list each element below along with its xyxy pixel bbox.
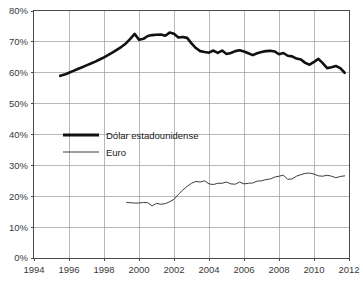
y-tick-label: 50% — [9, 98, 29, 109]
y-tick-label: 40% — [9, 129, 29, 140]
data-series — [60, 33, 344, 206]
y-tick-label: 20% — [9, 191, 29, 202]
series-line-dolar-estadounidense — [60, 33, 344, 76]
chart-container: 0%10%20%30%40%50%60%70%80% 1994199619982… — [0, 0, 363, 289]
x-tick-label: 2010 — [303, 264, 324, 275]
line-chart: 0%10%20%30%40%50%60%70%80% 1994199619982… — [0, 0, 363, 289]
y-tick-label: 70% — [9, 36, 29, 47]
x-tick-label: 2000 — [128, 264, 149, 275]
y-tick-label: 80% — [9, 5, 29, 16]
x-tick-label: 2004 — [198, 264, 219, 275]
x-tick-label: 1994 — [23, 264, 44, 275]
legend-label-euro: Euro — [106, 147, 126, 158]
x-tick-label: 1998 — [93, 264, 114, 275]
y-tick-label: 0% — [14, 252, 28, 263]
y-axis-labels: 0%10%20%30%40%50%60%70%80% — [9, 5, 29, 263]
y-tick-label: 60% — [9, 67, 29, 78]
x-tick-label: 2008 — [268, 264, 289, 275]
y-tick-label: 10% — [9, 222, 29, 233]
x-tick-label: 2006 — [233, 264, 254, 275]
x-axis-labels: 1994199619982000200220042006200820102012 — [23, 264, 359, 275]
chart-legend: Dólar estadounidenseEuro — [63, 130, 198, 158]
x-tick-label: 2002 — [163, 264, 184, 275]
legend-label-dolar-estadounidense: Dólar estadounidense — [106, 130, 198, 141]
x-tick-label: 1996 — [58, 264, 79, 275]
y-tick-label: 30% — [9, 160, 29, 171]
x-tick-label: 2012 — [338, 264, 359, 275]
series-line-euro — [127, 173, 345, 206]
